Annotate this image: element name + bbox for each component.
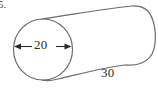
length-value-label: 30 (101, 66, 114, 79)
diameter-arrowhead-left (14, 43, 21, 49)
cylinder-right-cap (126, 18, 155, 65)
diameter-value-label: 20 (34, 38, 47, 51)
cylinder-figure: 5. 20 30 (0, 0, 158, 97)
cylinder-drawing (0, 0, 158, 97)
diameter-arrowhead-right (65, 43, 72, 49)
cylinder-top-edge (42, 6, 152, 19)
problem-number-label: 5. (0, 0, 6, 10)
